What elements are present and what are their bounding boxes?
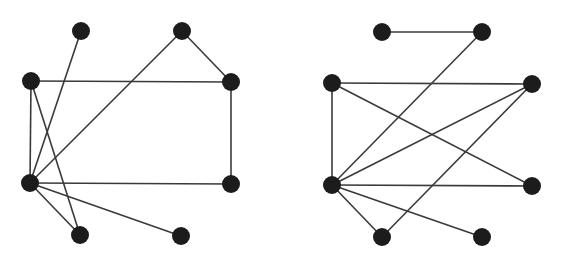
node-F <box>523 177 541 195</box>
node-H <box>172 227 190 245</box>
edge-C-E <box>30 81 31 183</box>
edge-B-E <box>332 32 482 185</box>
node-F <box>222 175 240 193</box>
node-D <box>222 73 240 91</box>
edge-E-F <box>332 185 532 186</box>
left-graph-nodes <box>21 22 240 245</box>
edge-D-G <box>382 84 532 237</box>
edge-E-F <box>30 183 231 184</box>
left-graph <box>21 22 240 245</box>
left-graph-edges <box>30 31 231 236</box>
node-E <box>21 174 39 192</box>
node-C <box>323 74 341 92</box>
node-G <box>373 228 391 246</box>
right-graph-edges <box>332 32 532 237</box>
node-A <box>72 22 90 40</box>
node-H <box>473 228 491 246</box>
node-B <box>473 23 491 41</box>
node-G <box>71 226 89 244</box>
edge-B-D <box>182 31 231 82</box>
node-D <box>523 75 541 93</box>
graph-diagram-canvas <box>0 0 562 265</box>
node-A <box>373 23 391 41</box>
node-C <box>22 72 40 90</box>
node-B <box>173 22 191 40</box>
edge-E-H <box>332 185 482 237</box>
node-E <box>323 176 341 194</box>
edge-C-D <box>332 83 532 84</box>
edge-C-D <box>31 81 231 82</box>
edge-B-E <box>30 31 182 183</box>
edge-E-G <box>332 185 382 237</box>
right-graph <box>323 23 541 246</box>
edge-E-H <box>30 183 181 236</box>
